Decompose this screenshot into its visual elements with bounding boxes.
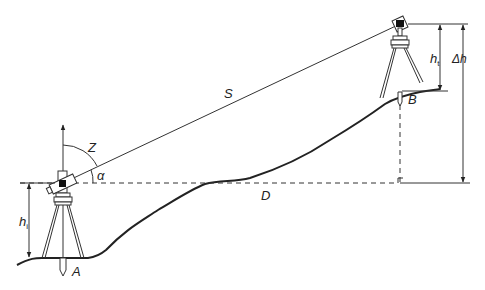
label-height-difference: Δh <box>451 52 467 66</box>
label-horizontal-distance: D <box>261 188 270 203</box>
vertical-angle-arc <box>91 170 93 183</box>
trig-levelling-diagram: S D Z α A B hi ht Δh <box>0 0 485 290</box>
label-point-a: A <box>71 264 81 279</box>
terrain-profile <box>17 89 440 265</box>
label-zenith-angle: Z <box>87 140 97 155</box>
label-point-b: B <box>408 92 417 107</box>
label-target-height: ht <box>430 51 440 68</box>
label-slope-distance: S <box>224 86 233 101</box>
slope-distance-line <box>63 24 400 183</box>
label-vertical-angle: α <box>97 168 105 183</box>
label-instrument-height: hi <box>19 214 28 231</box>
